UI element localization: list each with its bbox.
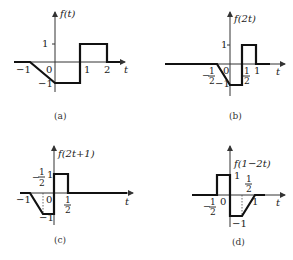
panel-c: f(2t+1) t 1 −1 −1 − 1 2 0 1 2 (c) (16, 146, 133, 245)
tick-label-neg1-x: −1 (16, 64, 31, 75)
tick-label-0: 0 (46, 194, 52, 205)
panel-d: f(1−2t) t 1 −1 1 2 1 − 1 2 0 (d) (192, 146, 285, 247)
frac-den: 2 (210, 207, 216, 217)
tick-label-neg1: −1 (232, 218, 247, 229)
frac-den: 2 (246, 184, 252, 194)
y-axis-label: f(1−2t) (233, 158, 271, 169)
caption: (a) (54, 111, 66, 121)
frac-num: 1 (210, 197, 216, 207)
frac-den: 2 (244, 76, 250, 86)
y-axis-label: f(2t+1) (57, 148, 95, 159)
frac-den: 2 (39, 178, 45, 188)
panel-a: f(t) t 1 −1 −1 0 1 2 (a) (14, 8, 129, 121)
tick-label-1-x: 1 (252, 196, 258, 207)
frac-num: 1 (244, 66, 250, 76)
frac-num: 1 (246, 174, 252, 184)
tick-label-2-x: 2 (104, 64, 110, 75)
tick-label-neg1: −1 (39, 212, 54, 223)
x-axis-label: t (125, 196, 130, 207)
x-axis-label: t (124, 64, 129, 75)
tick-label-1: 1 (42, 38, 48, 49)
frac-num: 1 (65, 195, 71, 205)
x-axis-label: t (276, 197, 281, 208)
tick-label-1: 1 (47, 169, 53, 180)
tick-label-1-x: 1 (254, 65, 260, 76)
frac-num: 1 (39, 167, 45, 177)
panel-b: f(2t) t 1 −1 − 1 2 0 1 2 1 (b) (165, 12, 285, 121)
tick-label-neg1: −1 (215, 78, 230, 89)
frac-den: 2 (65, 205, 71, 215)
y-axis-label: f(t) (59, 8, 76, 19)
tick-label-1-x: 1 (84, 64, 90, 75)
tick-label-1: 1 (221, 39, 227, 50)
x-axis-label: t (276, 66, 281, 77)
tick-label-1: 1 (234, 170, 240, 181)
tick-label-0: 0 (223, 65, 229, 76)
signal-diagram: f(t) t 1 −1 −1 0 1 2 (a) f(2t) t 1 −1 − … (0, 0, 293, 260)
caption: (c) (54, 235, 66, 245)
tick-label-0: 0 (46, 64, 52, 75)
caption: (d) (232, 237, 245, 247)
y-axis-label: f(2t) (233, 13, 256, 24)
caption: (b) (229, 111, 242, 121)
tick-label-0: 0 (220, 196, 226, 207)
tick-label-neg1: −1 (38, 78, 53, 89)
frac-num: 1 (209, 66, 215, 76)
tick-label-neg1-x: −1 (16, 194, 31, 205)
frac-den: 2 (209, 76, 215, 86)
